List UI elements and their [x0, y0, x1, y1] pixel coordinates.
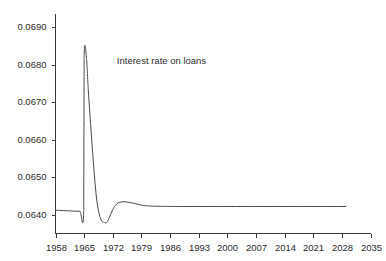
series-annotation-label: Interest rate on loans: [117, 56, 206, 66]
chart-series-group: [56, 45, 346, 223]
series-line-interest-rate-on-loans: [56, 45, 346, 223]
line-chart-plot: [0, 0, 386, 261]
chart-container: 0.06400.06500.06600.06700.06800.0690 195…: [0, 0, 386, 261]
y-axis-tick-label: 0.0650: [0, 172, 47, 182]
chart-axes: [56, 14, 371, 234]
y-axis-tick-label: 0.0660: [0, 135, 47, 145]
x-axis-tick-label: 2035: [352, 243, 386, 253]
y-axis-tick-label: 0.0670: [0, 97, 47, 107]
y-axis-ticks: [52, 28, 56, 216]
y-axis-tick-label: 0.0680: [0, 60, 47, 70]
y-axis-tick-label: 0.0690: [0, 22, 47, 32]
x-axis-ticks: [57, 234, 372, 238]
y-axis-tick-label: 0.0640: [0, 210, 47, 220]
